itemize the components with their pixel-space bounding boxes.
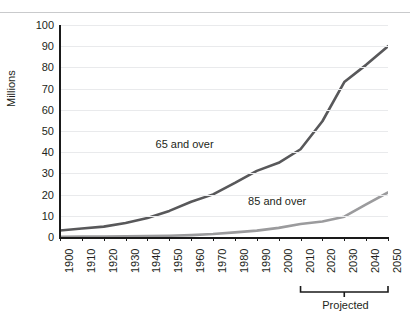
x-tick-mark-2000 [279, 237, 280, 241]
cutoff-fragment-2: .. [190, 0, 196, 1]
x-tick-mark-1990 [257, 237, 258, 241]
projected-bracket [60, 285, 390, 299]
x-tick-1930: 1930 [130, 249, 141, 273]
cut-off-title-remnant: ........ .. .. . . [0, 0, 410, 11]
y-tick-10: 10 [8, 211, 54, 222]
gridline-80 [60, 67, 388, 68]
gridline-20 [60, 195, 388, 196]
y-tick-0: 0 [8, 232, 54, 243]
x-tick-1970: 1970 [217, 249, 228, 273]
x-tick-mark-1940 [147, 237, 148, 241]
x-tick-1980: 1980 [239, 249, 250, 273]
cutoff-fragment-1: ........ [6, 0, 29, 1]
x-axis-line [59, 237, 389, 239]
x-tick-mark-1980 [235, 237, 236, 241]
x-tick-1960: 1960 [195, 249, 206, 273]
x-tick-2050: 2050 [392, 249, 403, 273]
population-line-chart: 65 and over 85 and over 100 90 80 70 60 … [0, 13, 410, 311]
x-tick-1920: 1920 [108, 249, 119, 273]
x-tick-2030: 2030 [348, 249, 359, 273]
line-65-and-over [60, 46, 388, 230]
x-tick-mark-2030 [344, 237, 345, 241]
cutoff-fragment-4: . . [378, 0, 387, 1]
x-tick-2020: 2020 [326, 249, 337, 273]
plot-area: 65 and over 85 and over [60, 25, 388, 237]
y-tick-100: 100 [8, 20, 54, 31]
x-tick-mark-2050 [388, 237, 389, 241]
x-tick-mark-1930 [126, 237, 127, 241]
line-85-and-over [60, 192, 388, 236]
gridline-60 [60, 110, 388, 111]
gridline-100 [60, 25, 388, 26]
x-tick-2010: 2010 [305, 249, 316, 273]
y-tick-30: 30 [8, 168, 54, 179]
series-label-65-and-over: 65 and over [156, 138, 214, 150]
x-tick-mark-1900 [60, 237, 61, 241]
gridline-70 [60, 89, 388, 90]
x-tick-mark-1910 [82, 237, 83, 241]
y-axis-line [59, 25, 61, 238]
y-tick-20: 20 [8, 190, 54, 201]
y-axis-tick-labels: 100 90 80 70 60 50 40 30 20 10 0 [0, 25, 54, 238]
x-tick-mark-1950 [169, 237, 170, 241]
x-axis-tick-labels: 1900191019201930194019501960197019801990… [60, 241, 390, 285]
y-tick-40: 40 [8, 147, 54, 158]
x-tick-mark-2040 [366, 237, 367, 241]
x-tick-mark-1920 [104, 237, 105, 241]
x-tick-mark-1970 [213, 237, 214, 241]
x-tick-1910: 1910 [86, 249, 97, 273]
gridline-90 [60, 46, 388, 47]
x-tick-2040: 2040 [370, 249, 381, 273]
x-tick-1950: 1950 [173, 249, 184, 273]
x-tick-1940: 1940 [151, 249, 162, 273]
series-label-85-and-over: 85 and over [248, 195, 306, 207]
gridline-30 [60, 173, 388, 174]
gridline-50 [60, 131, 388, 132]
gridline-40 [60, 152, 388, 153]
projected-label: Projected [322, 299, 368, 311]
y-axis-title: Millions [5, 70, 17, 107]
x-tick-1900: 1900 [64, 249, 75, 273]
x-tick-mark-2010 [301, 237, 302, 241]
y-tick-50: 50 [8, 126, 54, 137]
x-tick-1990: 1990 [261, 249, 272, 273]
y-tick-90: 90 [8, 41, 54, 52]
x-tick-mark-2020 [322, 237, 323, 241]
x-tick-mark-1960 [191, 237, 192, 241]
x-tick-2000: 2000 [283, 249, 294, 273]
gridline-10 [60, 216, 388, 217]
cutoff-fragment-3: .. [306, 0, 312, 1]
